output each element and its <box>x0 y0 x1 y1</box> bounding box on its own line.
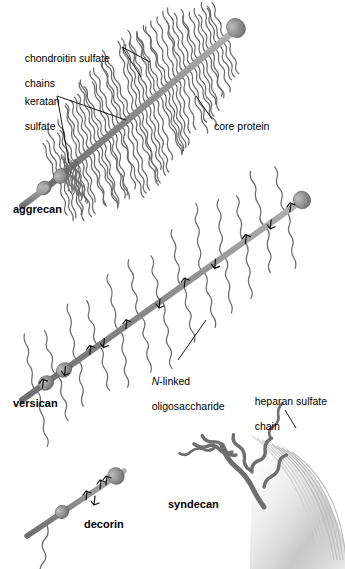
decorin-glycosaminoglycan-chain <box>40 525 48 569</box>
label-versican: versican <box>13 397 58 410</box>
label-chondroitin-sulfate-line1: chondroitin sulfate <box>25 52 110 64</box>
diagram-canvas: chondroitin sulfate chains keratan sulfa… <box>0 0 345 569</box>
label-core-protein: core protein <box>214 120 269 133</box>
label-heparan-sulfate-chain: heparan sulfate chain <box>243 382 327 445</box>
versican-leader-lines <box>178 320 206 360</box>
label-oligosaccharide: oligosaccharide <box>152 400 225 412</box>
label-aggrecan: aggrecan <box>13 203 62 216</box>
label-n-linked-oligosaccharide: N-linked oligosaccharide <box>140 362 225 425</box>
label-decorin: decorin <box>84 518 124 531</box>
label-syndecan: syndecan <box>168 498 219 511</box>
label-heparan-sulfate-line2: chain <box>255 420 280 432</box>
label-keratan-sulfate: keratan sulfate <box>13 82 60 145</box>
label-n-linked-rest: -linked <box>159 375 190 387</box>
label-keratan-sulfate-line1: keratan <box>25 95 60 107</box>
decorin-molecule <box>27 464 127 569</box>
label-keratan-sulfate-line2: sulfate <box>25 120 56 132</box>
label-heparan-sulfate-line1: heparan sulfate <box>255 395 327 407</box>
